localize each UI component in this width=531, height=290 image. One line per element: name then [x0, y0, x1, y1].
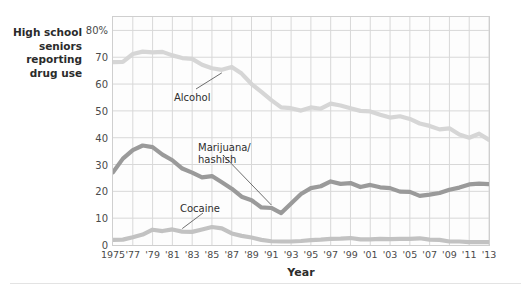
chart-canvas: [113, 17, 489, 245]
x-tick-1987: '87: [224, 249, 239, 260]
chart-figure: High school seniors reporting drug use 0…: [0, 0, 531, 290]
y-tick-80: 80%: [72, 25, 108, 36]
x-tick-1995: '95: [304, 249, 319, 260]
y-tick-10: 10: [72, 213, 108, 224]
x-tick-1985: '85: [205, 249, 220, 260]
plot-area: [112, 16, 490, 246]
y-tick-30: 30: [72, 159, 108, 170]
grid-lines: [113, 17, 489, 245]
annotation-alcohol-line-1: Alcohol: [174, 92, 210, 104]
y-axis-tick-labels: 01020304050607080%: [72, 16, 108, 246]
series-line-marijuana-hashish: [113, 145, 489, 213]
x-tick-2007: '07: [422, 249, 437, 260]
x-tick-1983: '83: [185, 249, 200, 260]
annotation-cocaine-line-1: Cocaine: [180, 203, 220, 215]
x-tick-1977: '77: [125, 249, 140, 260]
annotation-marijuana-line-2: hashish: [198, 154, 251, 166]
leader-line-0: [196, 73, 222, 89]
x-tick-1989: '89: [244, 249, 259, 260]
x-tick-1979: '79: [145, 249, 160, 260]
x-tick-1975: 1975: [101, 249, 125, 260]
x-tick-2005: '05: [402, 249, 417, 260]
y-tick-70: 70: [72, 52, 108, 63]
y-axis-title-line-3: reporting: [4, 53, 82, 67]
y-axis-title-line-4: drug use: [4, 67, 82, 81]
x-tick-1981: '81: [165, 249, 180, 260]
footer-divider: [10, 283, 521, 284]
annotation-cocaine: Cocaine: [180, 203, 220, 215]
series-line-alcohol: [113, 52, 489, 140]
x-tick-1993: '93: [284, 249, 299, 260]
x-tick-1999: '99: [343, 249, 358, 260]
y-tick-40: 40: [72, 132, 108, 143]
x-tick-2003: '03: [383, 249, 398, 260]
y-axis-title-line-1: High school: [4, 26, 82, 40]
y-axis-title: High school seniors reporting drug use: [4, 26, 82, 80]
annotation-alcohol: Alcohol: [174, 92, 210, 104]
x-axis-title: Year: [112, 266, 490, 279]
x-tick-2011: '11: [462, 249, 477, 260]
y-tick-50: 50: [72, 105, 108, 116]
annotation-marijuana: Marijuana/ hashish: [198, 142, 251, 166]
x-axis-tick-labels: 1975'77'79'81'83'85'87'89'91'93'95'97'99…: [112, 249, 490, 265]
annotation-marijuana-line-1: Marijuana/: [198, 142, 251, 154]
x-tick-2013: '13: [482, 249, 497, 260]
series-line-cocaine: [113, 227, 489, 242]
y-tick-20: 20: [72, 186, 108, 197]
x-tick-1997: '97: [323, 249, 338, 260]
series-lines: [113, 52, 489, 242]
x-tick-2009: '09: [442, 249, 457, 260]
x-tick-2001: '01: [363, 249, 378, 260]
x-tick-1991: '91: [264, 249, 279, 260]
y-tick-60: 60: [72, 79, 108, 90]
y-axis-title-line-2: seniors: [4, 40, 82, 54]
